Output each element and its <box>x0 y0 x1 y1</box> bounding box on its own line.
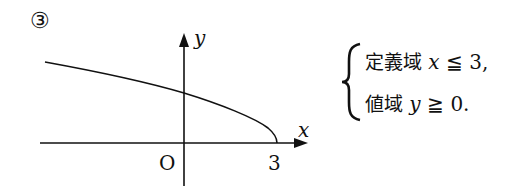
range-condition: 値域 y ≧ 0. <box>365 89 469 116</box>
domain-rel: ≦ <box>446 50 463 74</box>
range-label: 値域 <box>365 93 403 115</box>
domain-label: 定義域 <box>365 51 422 73</box>
range-var: y <box>409 92 420 116</box>
domain-condition: 定義域 x ≦ 3, <box>365 47 488 74</box>
domain-val: 3, <box>469 50 488 74</box>
y-axis-arrow-icon <box>179 33 189 47</box>
range-val: 0. <box>450 92 469 116</box>
brace-icon <box>340 42 364 122</box>
domain-var: x <box>428 50 439 74</box>
x-tick-3-label: 3 <box>268 151 281 175</box>
x-axis-label: x <box>298 118 309 142</box>
curve <box>45 62 277 143</box>
range-rel: ≧ <box>427 92 444 116</box>
origin-label: O <box>159 151 175 175</box>
y-axis-label: y <box>194 26 205 50</box>
